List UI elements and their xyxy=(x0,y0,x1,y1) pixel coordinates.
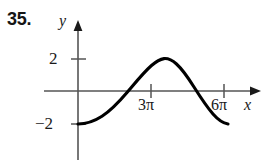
x-axis-label: x xyxy=(244,97,251,113)
y-tick-label-negative-2: −2 xyxy=(35,115,53,132)
y-tick-label-2: 2 xyxy=(49,50,58,67)
y-axis-label: y xyxy=(59,13,66,29)
x-tick-label-3pi: 3π xyxy=(138,97,154,113)
y-axis-arrowhead xyxy=(74,20,83,31)
math-figure-35: 35. y x 2 −2 3π 6π xyxy=(0,0,269,164)
graph-canvas xyxy=(0,0,269,164)
x-axis-arrowhead xyxy=(250,87,261,96)
x-tick-label-6pi: 6π xyxy=(211,97,227,113)
axes-group xyxy=(44,20,261,160)
